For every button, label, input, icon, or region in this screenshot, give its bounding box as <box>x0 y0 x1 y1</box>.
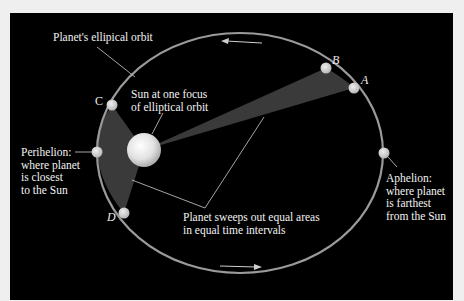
arrow-right-icon <box>220 264 262 270</box>
planet-position-d <box>119 208 130 219</box>
planet-position-a <box>349 83 360 94</box>
point-label-b: B <box>332 53 339 68</box>
planet-position-b <box>321 63 332 74</box>
arrow-left-icon <box>221 38 262 44</box>
aphelion-label: Aphelion: where planet is farthest from … <box>386 172 446 222</box>
point-label-d: D <box>107 210 116 225</box>
point-label-c: C <box>95 94 103 109</box>
perihelion-label: Perihelion: where planet is closest to t… <box>21 146 80 196</box>
sun-leader-line <box>152 113 163 134</box>
planet-perihelion <box>92 147 103 158</box>
equal-areas-label: Planet sweeps out equal areas in equal t… <box>183 211 320 236</box>
sun <box>127 133 161 167</box>
aphelion-leader-line <box>388 157 397 167</box>
planet-aphelion <box>379 148 390 159</box>
planet-position-c <box>107 100 118 111</box>
orbit-leader-line <box>97 47 135 77</box>
sun-label: Sun at one focus of elliptical orbit <box>131 88 208 113</box>
orbit-label: Planet's ellipical orbit <box>53 31 153 44</box>
point-label-a: A <box>361 73 368 88</box>
